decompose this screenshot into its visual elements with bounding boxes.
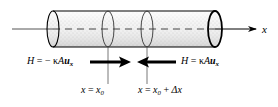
x0-equals: = [88, 84, 94, 95]
axis-label-x: x [262, 24, 267, 35]
flux-label-right: H = κAux [181, 56, 219, 68]
flux-arrow-left [90, 57, 131, 68]
position-label-x0-plus-dx: x = x0 + Δx [138, 85, 182, 97]
flux-arrow-right [137, 57, 176, 68]
flux-left-sign: − [45, 55, 51, 66]
flux-right-gradient-subscript: x [216, 60, 219, 67]
cylinder-body [47, 11, 221, 47]
x0-value-subscript: 0 [101, 89, 104, 96]
heat-conduction-diagram: H = − κAux H = κAux x = x0 x = x0 + Δx x [0, 0, 278, 107]
x0dx-delta: Δx [172, 84, 182, 95]
flux-left-gradient-subscript: x [70, 60, 73, 67]
x0dx-equals: = [145, 84, 151, 95]
flux-label-left: H = − κAux [27, 56, 73, 68]
position-label-x0: x = x0 [81, 85, 104, 97]
